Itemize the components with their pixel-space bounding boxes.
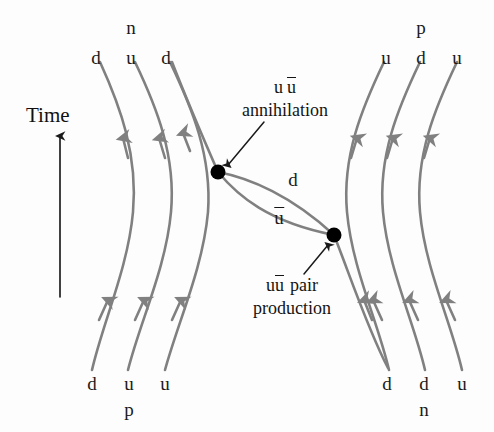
quark-label-bottom-right-2: d — [419, 374, 429, 393]
incoming-d-line-to-annihilation-vertex — [172, 62, 218, 172]
hadron-label-bottom-right: n — [419, 400, 429, 419]
quark-label-bottom-right-3: u — [457, 374, 467, 393]
pair-production-ubar: u — [275, 275, 284, 294]
hadron-label-top-right: p — [416, 18, 426, 37]
quark-label-top-left-3: d — [161, 48, 171, 67]
hadron-label-top-left: n — [126, 18, 136, 37]
quark-label-top-left-2: u — [126, 48, 136, 67]
quark-label-bottom-right-1: d — [382, 374, 392, 393]
outgoing-d-line-from-pair-vertex — [334, 235, 388, 368]
incoming-d-line-arrow — [183, 133, 190, 151]
pair-production-suffix: pair — [290, 275, 318, 295]
quark-label-bottom-left-1: d — [87, 374, 97, 393]
pair-production-u: u — [266, 275, 275, 295]
quark-label-top-left-1: d — [91, 48, 101, 67]
feynman-diagram-canvas: Time n d u d p u d u d u u p d d u n d u… — [0, 0, 494, 432]
pair-production-annotation-line1: uupair — [253, 274, 331, 297]
annihilation-leader-arrow — [228, 122, 264, 165]
hadron-label-bottom-left: p — [124, 400, 134, 419]
quark-label-top-right-2: d — [416, 48, 426, 67]
annihilation-annotation-line1: uu — [242, 76, 328, 99]
pair-production-annotation: uupair production — [253, 274, 331, 319]
annihilation-ubar: u — [287, 77, 296, 96]
left-quark-line-3-arrow-bottom — [172, 300, 181, 320]
left-quark-line-1 — [92, 62, 134, 370]
annihilation-annotation: uu annihilation — [242, 76, 328, 121]
pair-production-vertex — [327, 228, 342, 243]
quark-label-top-right-1: u — [381, 48, 391, 67]
annihilation-annotation-line2: annihilation — [242, 99, 328, 122]
quark-label-bottom-left-2: u — [124, 374, 134, 393]
time-axis-label: Time — [26, 105, 70, 126]
left-quark-line-2 — [128, 62, 172, 370]
annihilation-u: u — [274, 77, 283, 97]
left-quark-line-2-arrow-bottom — [135, 300, 144, 320]
exchange-label-ubar: u — [274, 206, 284, 227]
exchange-label-d: d — [288, 170, 298, 189]
right-quark-line-3 — [419, 62, 462, 370]
pair-production-leader-arrow — [304, 245, 328, 274]
quark-label-top-right-3: u — [452, 48, 462, 67]
annihilation-vertex — [211, 165, 226, 180]
quark-label-bottom-left-3: u — [160, 374, 170, 393]
pair-production-annotation-line2: production — [253, 297, 331, 320]
exchange-label-ubar-text: u — [274, 207, 284, 227]
right-quark-line-2 — [382, 62, 425, 370]
